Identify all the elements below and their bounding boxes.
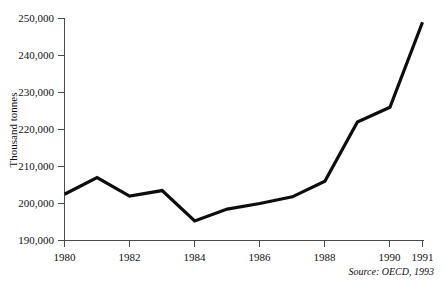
y-tick-label-220000: 220,000 — [18, 123, 54, 135]
x-tick-label-1982: 1982 — [119, 251, 141, 263]
x-tick-label-1980: 1980 — [54, 251, 77, 263]
y-tick-marks — [58, 19, 65, 241]
x-tick-marks — [65, 241, 423, 248]
data-series-line — [65, 22, 423, 221]
chart-figure: 250,000 240,000 230,000 220,000 210,000 … — [0, 0, 446, 285]
x-tick-label-1991: 1991 — [412, 251, 434, 263]
y-tick-label-240000: 240,000 — [18, 49, 54, 61]
x-axis-group: 1980 1982 1984 1986 1988 1990 1991 — [54, 241, 434, 264]
x-tick-label-1986: 1986 — [249, 251, 272, 263]
y-axis-group: 250,000 240,000 230,000 220,000 210,000 … — [7, 12, 65, 246]
y-tick-label-230000: 230,000 — [18, 86, 54, 98]
x-tick-label-1984: 1984 — [184, 251, 207, 263]
source-note: Source: OECD, 1993 — [349, 266, 434, 277]
y-axis-title: Thousand tonnes — [7, 93, 19, 168]
y-tick-label-200000: 200,000 — [18, 197, 54, 209]
line-chart-svg: 250,000 240,000 230,000 220,000 210,000 … — [0, 0, 446, 285]
x-tick-label-1990: 1990 — [379, 251, 402, 263]
y-tick-label-250000: 250,000 — [18, 12, 54, 24]
x-tick-label-1988: 1988 — [314, 251, 337, 263]
y-tick-label-210000: 210,000 — [18, 160, 54, 172]
y-tick-label-190000: 190,000 — [18, 234, 54, 246]
